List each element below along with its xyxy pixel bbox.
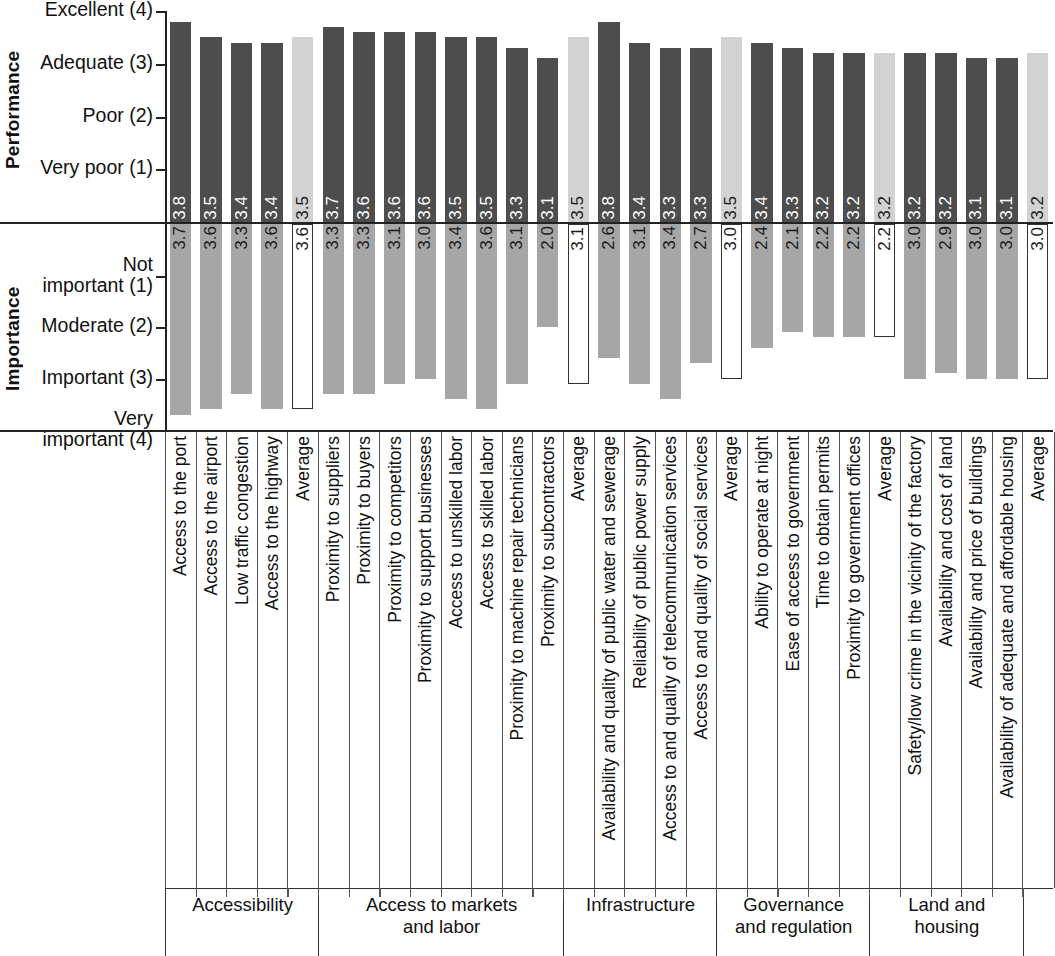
performance-bar: 3.1 (966, 58, 987, 222)
group-band-tick (502, 888, 503, 897)
performance-bar: 3.8 (598, 22, 619, 222)
group-band-tick (961, 888, 962, 897)
group-band-tick (594, 888, 595, 897)
performance-bar-value: 3.4 (753, 196, 770, 220)
performance-bar: 3.1 (537, 58, 558, 222)
group-band-tick (226, 888, 227, 897)
importance-bar-value: 3.1 (569, 227, 586, 251)
category-label: Availability and quality of public water… (601, 436, 619, 840)
category-label-cell: Low traffic congestion (226, 432, 258, 888)
category-label: Availability and cost of land (938, 436, 956, 647)
importance-bar-value: 2.2 (876, 227, 893, 251)
importance-bar: 3.1 (629, 224, 650, 384)
performance-bar-value: 3.6 (386, 196, 403, 220)
performance-tick-mark (156, 169, 165, 171)
importance-bar-value: 3.0 (1029, 227, 1046, 251)
importance-bar: 3.0 (966, 224, 987, 379)
group-band-tick (532, 888, 533, 897)
importance-bar: 2.9 (935, 224, 956, 373)
performance-bar-value: 3.8 (171, 196, 188, 220)
performance-bar: 3.6 (415, 32, 436, 222)
importance-bar: 3.6 (292, 224, 313, 409)
group-cell-4: Land andhousing (869, 888, 1024, 956)
importance-bar: 3.1 (568, 224, 589, 384)
performance-bar-value: 3.5 (478, 196, 495, 220)
importance-bar-value: 2.2 (845, 226, 862, 250)
performance-bar: 3.2 (813, 53, 834, 222)
performance-bar-value: 3.4 (631, 196, 648, 220)
group-band-tick (471, 888, 472, 897)
category-label: Time to obtain permits (815, 436, 833, 608)
category-label: Access to unskilled labor (448, 436, 466, 629)
group-band-tick (196, 888, 197, 897)
category-label: Access to and quality of telecommunicati… (662, 436, 680, 841)
category-label-cell: Access to and quality of telecommunicati… (655, 432, 687, 888)
category-label: Reliability of public power supply (632, 436, 650, 689)
performance-tick-mark (156, 11, 165, 13)
performance-bar: 3.4 (629, 43, 650, 222)
category-label: Proximity to subcontractors (540, 436, 558, 647)
performance-bar-value: 3.4 (233, 196, 250, 220)
category-label: Proximity to suppliers (325, 436, 343, 602)
category-label-cell: Average (1022, 432, 1055, 888)
importance-bar-value: 3.0 (967, 226, 984, 250)
performance-bar: 3.7 (323, 27, 344, 222)
group-band-tick (686, 888, 687, 897)
importance-bar-value: 3.1 (386, 226, 403, 250)
group-cell-0: Accessibility (165, 888, 319, 956)
category-label-cell: Access to and quality of social services (686, 432, 718, 888)
importance-bar: 2.4 (751, 224, 772, 348)
importance-bar-value: 2.6 (600, 226, 617, 250)
importance-bar: 3.0 (1027, 224, 1048, 379)
performance-bar: 3.8 (170, 22, 191, 222)
importance-bar: 3.1 (506, 224, 527, 384)
performance-bar-value: 3.3 (508, 196, 525, 220)
category-label-cell: Access to the airport (196, 432, 228, 888)
group-cell-3: Governanceand regulation (716, 888, 870, 956)
category-label-cell: Proximity to subcontractors (532, 432, 564, 888)
performance-bar-value: 3.5 (569, 196, 586, 220)
performance-bar-value: 3.2 (937, 196, 954, 220)
category-label-cell: Safety/low crime in the vicinity of the … (900, 432, 932, 888)
performance-bar-value: 3.2 (814, 196, 831, 220)
category-label: Proximity to support businesses (417, 436, 435, 683)
importance-bar: 3.3 (231, 224, 252, 394)
group-band-tick (931, 888, 932, 897)
group-band-tick (379, 888, 380, 897)
performance-bar-value: 3.1 (539, 196, 556, 220)
group-band: AccessibilityAccess to marketsand laborI… (165, 888, 1053, 950)
performance-tick-label-1: Very poor (1) (8, 157, 153, 178)
importance-bar-value: 2.4 (753, 226, 770, 250)
performance-bar: 3.5 (568, 37, 589, 222)
group-band-tick (318, 888, 319, 897)
performance-bar-value: 3.6 (416, 196, 433, 220)
category-label-cell: Ability to operate at night (747, 432, 779, 888)
category-label-cell: Ease of access to government (777, 432, 809, 888)
category-label: Safety/low crime in the vicinity of the … (907, 436, 925, 775)
importance-bar-value: 3.1 (508, 226, 525, 250)
category-label: Ability to operate at night (754, 436, 772, 629)
performance-bar: 3.5 (292, 37, 313, 222)
importance-bar: 3.4 (660, 224, 681, 399)
performance-tick-mark (156, 117, 165, 119)
group-band-tick (869, 888, 870, 897)
importance-bar: 3.1 (384, 224, 405, 384)
category-label-cell: Proximity to support businesses (410, 432, 442, 888)
performance-bar: 3.5 (445, 37, 466, 222)
performance-bar-value: 3.2 (876, 196, 893, 220)
category-label-cell: Availability and cost of land (931, 432, 963, 888)
importance-bar-value: 2.0 (539, 226, 556, 250)
category-label: Access to the highway (264, 436, 282, 610)
performance-bar: 3.5 (721, 37, 742, 222)
category-label: Proximity to government offices (846, 436, 864, 680)
importance-tick-mark (156, 379, 165, 381)
category-label: Average (570, 436, 588, 501)
importance-bar-value: 3.7 (171, 226, 188, 250)
importance-bar: 2.7 (690, 224, 711, 363)
performance-bar-value: 3.5 (722, 196, 739, 220)
performance-bar-value: 3.4 (263, 196, 280, 220)
performance-bar: 3.3 (660, 48, 681, 222)
performance-bar-value: 3.3 (784, 196, 801, 220)
performance-bar-value: 3.3 (692, 196, 709, 220)
importance-bar-value: 3.1 (631, 226, 648, 250)
